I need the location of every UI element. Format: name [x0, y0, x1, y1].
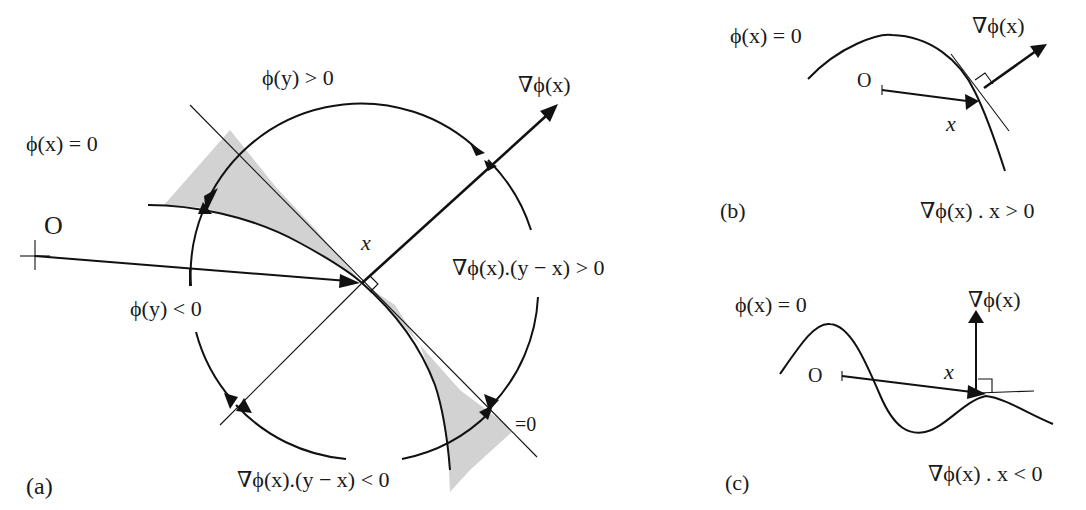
label-grad-c: ∇ϕ(x): [968, 287, 1021, 312]
right-angle-mark-c: [978, 379, 992, 392]
label-dot-positive: ∇ϕ(x).(y − x) > 0: [452, 255, 605, 280]
label-origin-b: O: [857, 69, 871, 91]
label-grad-b: ∇ϕ(x): [972, 13, 1025, 38]
panel-a: ϕ(x) = 0 O ϕ(y) > 0 ϕ(y) < 0 ∇ϕ(x) x ∇ϕ(…: [20, 65, 605, 499]
label-point-x-c: x: [943, 359, 954, 384]
level-set-gradient-figure: ϕ(x) = 0 O ϕ(y) > 0 ϕ(y) < 0 ∇ϕ(x) x ∇ϕ(…: [0, 0, 1086, 510]
circle-arc-left-lower: [196, 332, 232, 400]
tangent-line-b: [951, 54, 1009, 131]
caption-a: (a): [26, 473, 53, 499]
circle-arc-right-lower: [492, 297, 538, 405]
caption-b: (b): [720, 198, 746, 223]
label-point-x-a: x: [360, 230, 371, 255]
circle-arc-bottom-left: [236, 405, 346, 459]
shaded-region-upper: [164, 130, 362, 283]
position-vector-b: [882, 90, 967, 101]
label-condition-c: ∇ϕ(x) . x < 0: [928, 461, 1043, 486]
arrowhead-bottom-left-b: [236, 398, 252, 413]
position-vector-arrowhead: [339, 274, 360, 288]
circle-arc-left-upper: [191, 211, 203, 286]
arrowhead-bottom-left-a: [224, 393, 238, 409]
label-phi-x-zero-c: ϕ(x) = 0: [735, 292, 807, 317]
tangent-line-c: [978, 391, 1034, 393]
label-grad-a: ∇ϕ(x): [518, 72, 571, 97]
circle-arc-right-upper: [488, 160, 531, 230]
label-phi-y-neg: ϕ(y) < 0: [130, 296, 202, 321]
label-point-x-b: x: [945, 111, 956, 136]
label-phi-y-pos: ϕ(y) > 0: [262, 65, 334, 90]
label-origin-a: O: [44, 211, 63, 240]
panel-b: ϕ(x) = 0 O ∇ϕ(x) x (b) ∇ϕ(x) . x > 0: [720, 13, 1047, 223]
label-dot-zero: =0: [515, 413, 536, 435]
gradient-arrowhead-b: [1030, 44, 1047, 58]
panel-c: ϕ(x) = 0 O ∇ϕ(x) x (c) ∇ϕ(x) . x < 0: [725, 287, 1053, 495]
caption-c: (c): [725, 470, 749, 495]
shaded-region-lower: [362, 283, 512, 492]
label-dot-negative: ∇ϕ(x).(y − x) < 0: [237, 467, 390, 492]
label-phi-x-zero-a: ϕ(x) = 0: [26, 131, 98, 156]
arrowhead-top-right: [470, 143, 485, 156]
label-origin-c: O: [808, 364, 822, 386]
label-phi-x-zero-b: ϕ(x) = 0: [730, 23, 802, 48]
label-condition-b: ∇ϕ(x) . x > 0: [920, 198, 1035, 223]
